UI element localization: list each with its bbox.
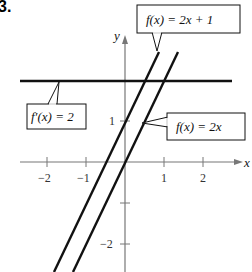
label-derivative: f′(x) = 2 xyxy=(31,109,74,124)
graph: x y −2 −1 1 2 1 −2 f(x) = 2x + 1 f′(x) =… xyxy=(0,0,252,272)
y-tick-1: 1 xyxy=(109,114,115,128)
x-tick-1: 1 xyxy=(161,171,167,185)
x-tick-minus-2: −2 xyxy=(38,171,51,185)
x-tick-minus-1: −1 xyxy=(77,171,90,185)
x-axis-label: x xyxy=(243,155,250,170)
label-2x-plus-1: f(x) = 2x + 1 xyxy=(146,12,213,27)
y-axis-label: y xyxy=(112,28,120,43)
x-tick-2: 2 xyxy=(200,171,206,185)
y-tick-minus-2: −2 xyxy=(100,237,113,251)
y-axis-arrow-icon xyxy=(122,35,128,44)
label-2x: f(x) = 2x xyxy=(176,119,222,134)
x-axis-arrow-icon xyxy=(234,159,243,165)
